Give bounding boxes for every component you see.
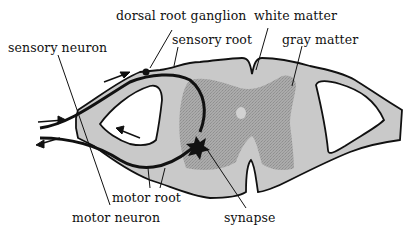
label-synapse: synapse [224,212,276,225]
label-sensory-root: sensory root [172,34,252,47]
dorsal-root-ganglion-dot [143,69,150,76]
central-canal [236,107,246,119]
gray-matter-region [179,75,296,170]
label-motor-root: motor root [112,192,181,205]
spinal-cord-diagram: dorsal root ganglion white matter sensor… [0,0,408,233]
label-gray-matter: gray matter [282,34,358,47]
label-motor-neuron: motor neuron [72,212,160,225]
label-white-matter: white matter [254,10,337,23]
label-sensory-neuron: sensory neuron [8,42,107,55]
label-dorsal-root-ganglion: dorsal root ganglion [116,10,246,23]
